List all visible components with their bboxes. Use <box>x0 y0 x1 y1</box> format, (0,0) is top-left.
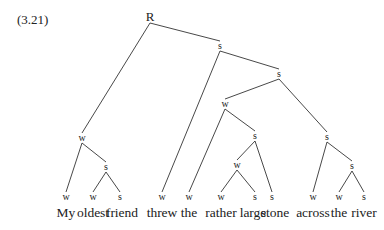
tree-edge-s4-s5 <box>327 142 352 161</box>
tree-node-s2: s <box>277 69 281 79</box>
tree-edge-s4-l9 <box>313 142 327 192</box>
tree-edge-sL-l2 <box>93 172 106 192</box>
word: stone <box>261 205 290 221</box>
word: the <box>331 205 348 221</box>
tree-node-w2: w <box>233 160 240 170</box>
tree-node-l8: s <box>270 192 274 202</box>
tree-node-l3: s <box>118 192 122 202</box>
tree-edge-w1-l5 <box>189 109 225 192</box>
tree-node-l11: s <box>362 192 366 202</box>
metrical-tree-diagram: (3.21) Rsswswsswswwswwwsswws Myoldestfri… <box>0 0 384 230</box>
tree-edge-s1-s2 <box>220 51 279 69</box>
tree-node-l7: s <box>253 192 257 202</box>
tree-edge-w2-l7 <box>237 170 255 192</box>
sentence: Myoldestfriendthrewtheratherlargestoneac… <box>0 205 384 221</box>
tree-edge-wL-sL <box>82 143 106 162</box>
tree-edge-R-wL <box>82 23 150 133</box>
tree-node-wL: w <box>78 133 85 143</box>
tree-node-l5: w <box>185 192 192 202</box>
word: across <box>296 205 330 221</box>
tree-edge-wL-l1 <box>66 143 82 192</box>
tree-edge-w2-l6 <box>221 170 237 192</box>
tree-edge-s3-l8 <box>255 141 272 192</box>
tree-edge-s5-l10 <box>339 171 352 192</box>
tree-edge-s3-w2 <box>237 141 255 160</box>
tree-node-l6: w <box>217 192 224 202</box>
tree-edge-R-s1 <box>150 23 220 41</box>
word: rather <box>205 205 236 221</box>
tree-node-s3: s <box>253 131 257 141</box>
word: My <box>57 205 76 221</box>
tree-node-l9: w <box>309 192 316 202</box>
tree-node-l4: w <box>158 192 165 202</box>
word: river <box>351 205 376 221</box>
tree-edge-s5-l11 <box>352 171 364 192</box>
word: oldest <box>77 205 109 221</box>
tree-node-s1: s <box>218 41 222 51</box>
tree-edge-s2-s4 <box>279 79 327 132</box>
tree-node-l2: w <box>89 192 96 202</box>
word: the <box>181 205 198 221</box>
tree-edge-s1-l4 <box>162 51 220 192</box>
tree-edge-s2-w1 <box>225 79 279 99</box>
word: threw <box>147 205 178 221</box>
tree-node-w1: w <box>221 99 228 109</box>
tree-edge-w1-s3 <box>225 109 255 131</box>
tree-edge-sL-l3 <box>106 172 120 192</box>
word: friend <box>106 205 138 221</box>
tree-node-s4: s <box>325 132 329 142</box>
tree-node-l10: w <box>335 192 342 202</box>
tree-node-s5: s <box>350 161 354 171</box>
tree-node-l1: w <box>62 192 69 202</box>
tree-node-sL: s <box>104 162 108 172</box>
tree-node-R: R <box>146 10 155 23</box>
